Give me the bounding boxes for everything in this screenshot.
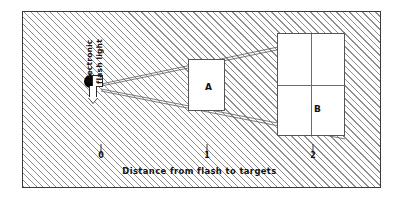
target-label-b: B: [314, 104, 321, 114]
axis-tick-label-1: 1: [204, 151, 210, 160]
axis-tick-label-2: 2: [310, 151, 316, 160]
axis-tick-label-0: 0: [98, 151, 104, 160]
axis-caption: Distance from flash to targets: [0, 166, 399, 176]
target-square-b: [277, 33, 345, 136]
target-label-a: A: [205, 82, 212, 92]
figure-canvas: Electronic flash light A B 0 1 2 Distanc…: [0, 0, 399, 202]
target-b-horizontal-divider: [278, 85, 344, 86]
flash-source-label: Electronic flash light: [85, 17, 104, 107]
